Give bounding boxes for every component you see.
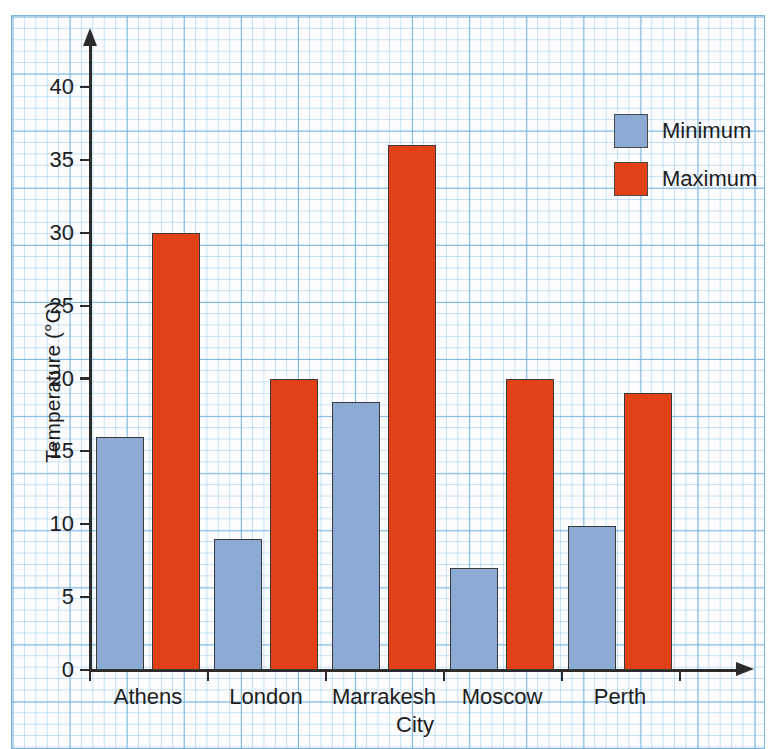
x-axis-tick-label-perth: Perth xyxy=(594,684,647,710)
chart-stage: 0510152025303540 AthensLondonMarrakeshMo… xyxy=(0,0,776,749)
y-axis-tick xyxy=(80,305,91,307)
x-axis-tick xyxy=(561,669,563,681)
legend-item-minimum: Minimum xyxy=(614,114,757,148)
y-axis-tick-label: 5 xyxy=(28,584,74,610)
x-axis-tick xyxy=(325,669,327,681)
y-axis-tick-label: 30 xyxy=(28,220,74,246)
y-axis-tick-label: 40 xyxy=(28,74,74,100)
x-axis-tick-label-london: London xyxy=(229,684,302,710)
y-axis-arrow-icon xyxy=(83,28,97,46)
y-axis-tick xyxy=(80,377,91,379)
chart-legend: Minimum Maximum xyxy=(614,114,757,210)
x-axis-tick xyxy=(443,669,445,681)
x-axis-tick-label-moscow: Moscow xyxy=(462,684,543,710)
legend-swatch-maximum-icon xyxy=(614,162,648,196)
legend-item-maximum: Maximum xyxy=(614,162,757,196)
bar-london-maximum xyxy=(270,379,318,671)
x-axis-tick-label-athens: Athens xyxy=(114,684,183,710)
y-axis-tick xyxy=(80,232,91,234)
x-axis-arrow-icon xyxy=(736,662,754,676)
legend-label-maximum: Maximum xyxy=(662,166,757,192)
y-axis-tick xyxy=(80,596,91,598)
y-axis-tick-label: 0 xyxy=(28,657,74,683)
x-axis-tick xyxy=(679,669,681,681)
bar-perth-minimum xyxy=(568,526,616,670)
x-axis-tick xyxy=(89,669,91,681)
x-axis-title: City xyxy=(396,712,434,738)
chart-screenshot: 0510152025303540 AthensLondonMarrakeshMo… xyxy=(0,0,776,749)
y-axis-tick xyxy=(80,159,91,161)
y-axis-tick-label: 10 xyxy=(28,511,74,537)
legend-label-minimum: Minimum xyxy=(662,118,751,144)
x-axis-tick xyxy=(207,669,209,681)
y-axis-tick xyxy=(80,86,91,88)
y-axis-line xyxy=(89,42,92,671)
x-axis-tick-label-marrakesh: Marrakesh xyxy=(332,684,436,710)
bar-london-minimum xyxy=(214,539,262,670)
y-axis-tick-label: 35 xyxy=(28,147,74,173)
bar-moscow-maximum xyxy=(506,379,554,671)
y-axis-tick xyxy=(80,523,91,525)
bar-marrakesh-maximum xyxy=(388,145,436,670)
bar-moscow-minimum xyxy=(450,568,498,670)
y-axis-title: Temperature (°C) xyxy=(41,267,65,497)
y-axis-tick xyxy=(80,450,91,452)
bar-marrakesh-minimum xyxy=(332,402,380,670)
bar-athens-minimum xyxy=(96,437,144,670)
bar-perth-maximum xyxy=(624,393,672,670)
bar-athens-maximum xyxy=(152,233,200,670)
legend-swatch-minimum-icon xyxy=(614,114,648,148)
